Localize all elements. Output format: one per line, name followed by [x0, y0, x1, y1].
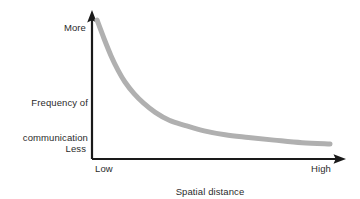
figure-canvas: More Less Frequency of communication Low… [0, 0, 360, 199]
y-axis-label-line-2: communication [8, 132, 88, 144]
communication-frequency-curve [97, 20, 330, 144]
x-axis-label: Spatial distance of separation [150, 163, 270, 199]
x-axis-tick-high: High [311, 163, 331, 175]
y-axis-tick-more: More [31, 22, 86, 34]
y-axis-label-line-1: Frequency of [8, 97, 88, 109]
x-axis-label-line-1: Spatial distance [150, 186, 270, 198]
x-axis-tick-low: Low [95, 163, 113, 175]
y-axis-label: Frequency of communication [8, 74, 88, 166]
